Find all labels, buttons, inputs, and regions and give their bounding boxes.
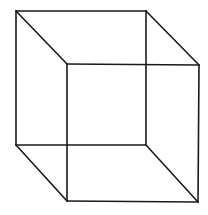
edge-front-top-left-to-front-top-right <box>67 64 199 65</box>
edge-front-bottom-right-to-front-bottom-left <box>67 201 198 202</box>
edge-back-top-left-to-front-top-left <box>16 11 67 64</box>
cube-edges <box>16 11 199 202</box>
wireframe-cube <box>0 0 208 215</box>
edge-back-bottom-right-to-front-bottom-right <box>146 145 198 202</box>
edge-front-top-right-to-front-bottom-right <box>198 65 199 202</box>
edge-back-bottom-left-to-front-bottom-left <box>16 145 67 201</box>
diagram-canvas <box>0 0 208 215</box>
edge-back-top-right-to-front-top-right <box>146 11 199 65</box>
